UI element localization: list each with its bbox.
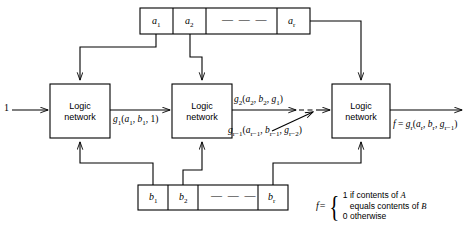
- output-label-f: f = gr(ar, br, gr−1): [393, 120, 457, 132]
- legend-line-3: 0 otherwise: [343, 211, 386, 221]
- a1-to-box1-line: [80, 34, 156, 80]
- register-b-cell-b1: b1: [149, 192, 158, 205]
- legend-text: 1 if contents of A equals contents of B …: [343, 190, 427, 222]
- register-a-cell-ellipsis: — — —: [222, 14, 268, 25]
- b2-to-box2-line: [183, 142, 202, 185]
- register-b-cell-b2: b2: [179, 192, 188, 205]
- legend-f-symbol: f: [316, 200, 319, 211]
- register-a-cell-a1: a1: [152, 16, 161, 29]
- register-a-cell-ar: ar: [288, 16, 295, 29]
- signal-label-gr-1: gr−1(ar−1, br−1, gr−2): [228, 126, 302, 138]
- legend-brace: {: [330, 194, 340, 218]
- legend-line-2: equals contents of B: [343, 201, 427, 211]
- input-one-label: 1: [4, 103, 9, 113]
- logic-network-label-1: Logicnetwork: [50, 101, 110, 123]
- signal-label-g2: g2(a2, b2, g1): [234, 95, 283, 107]
- register-a-cell-a2: a2: [185, 16, 194, 29]
- legend-line-1: 1 if contents of A: [343, 190, 406, 200]
- legend-definition: f = { 1 if contents of A equals contents…: [316, 190, 426, 222]
- legend-equals: =: [320, 200, 326, 211]
- register-b-cell-br: br: [268, 192, 275, 205]
- register-b-cell-ellipsis: — — —: [211, 190, 257, 201]
- logic-network-label-3: Logicnetwork: [332, 101, 390, 123]
- signal-label-g1: g1(a1, b1, 1): [113, 115, 158, 127]
- a2-to-box2-line: [190, 34, 202, 80]
- br-to-box3-line: [273, 142, 361, 185]
- logic-network-label-2: Logicnetwork: [172, 101, 232, 123]
- b1-to-box1-line: [80, 142, 153, 185]
- ar-to-box3-line: [310, 21, 361, 80]
- diagram-canvas: a1 a2 — — — ar b1 b2 — — — br Logicnetwo…: [0, 0, 470, 235]
